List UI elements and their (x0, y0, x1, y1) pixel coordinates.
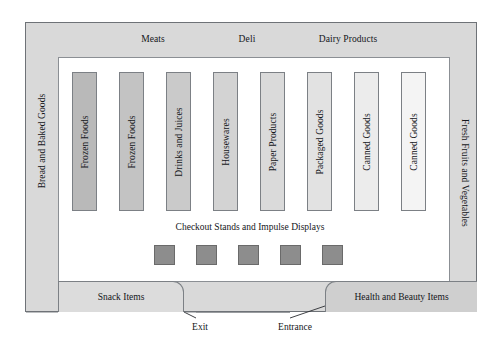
front-block-snack-items: Snack Items (58, 281, 184, 312)
aisle-label: Drinks and Juices (174, 107, 184, 176)
aisle-gondola: Paper Products (260, 72, 285, 211)
checkout-stand (196, 245, 217, 265)
door-label-entrance: Entrance (262, 322, 328, 332)
aisle-gondola: Frozen Foods (72, 72, 97, 211)
front-block-health-and-beauty-items: Health and Beauty Items (325, 281, 477, 312)
aisle-gondola: Packaged Goods (307, 72, 332, 211)
front-block-snack-items-label: Snack Items (98, 292, 145, 302)
checkout-stand (322, 245, 343, 265)
aisle-gondola: Canned Goods (401, 72, 426, 211)
perimeter-label-meats: Meats (118, 34, 188, 44)
perimeter-label-dairy-products: Dairy Products (300, 34, 396, 44)
checkout-caption: Checkout Stands and Impulse Displays (120, 222, 380, 232)
supermarket-floor-plan-diagram: Meats Deli Dairy Products Bread and Bake… (0, 0, 503, 345)
checkout-stand (154, 245, 175, 265)
aisle-label: Canned Goods (409, 113, 419, 170)
door-label-exit: Exit (174, 322, 226, 332)
aisle-gondola: Frozen Foods (119, 72, 144, 211)
aisle-label: Frozen Foods (127, 115, 137, 168)
aisle-gondola: Housewares (213, 72, 238, 211)
aisle-label: Packaged Goods (315, 109, 325, 174)
checkout-stand (280, 245, 301, 265)
front-block-health-and-beauty-items-label: Health and Beauty Items (354, 292, 448, 302)
perimeter-label-deli: Deli (222, 34, 272, 44)
perimeter-label-bread-and-baked-goods: Bread and Baked Goods (37, 28, 47, 254)
aisle-label: Housewares (221, 118, 231, 165)
checkout-stand (238, 245, 259, 265)
aisle-label: Paper Products (268, 112, 278, 171)
aisle-gondola: Drinks and Juices (166, 72, 191, 211)
aisle-label: Canned Goods (362, 113, 372, 170)
aisle-label: Frozen Foods (80, 115, 90, 168)
perimeter-label-fresh-fruits-and-vegetables: Fresh Fruits and Vegetables (460, 60, 470, 286)
aisle-gondola: Canned Goods (354, 72, 379, 211)
exit-leader-line (184, 312, 196, 318)
